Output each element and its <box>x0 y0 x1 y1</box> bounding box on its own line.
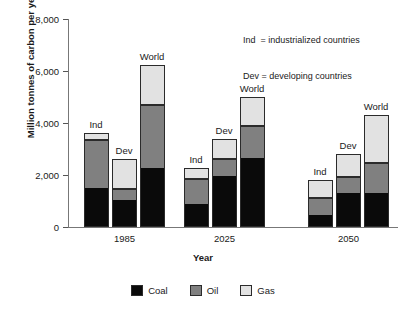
bar-segment-coal <box>337 193 360 227</box>
bar-2025-dev <box>212 139 237 227</box>
bar-2025-world <box>240 97 265 227</box>
x-axis-line <box>68 227 398 228</box>
legend-item-oil: Oil <box>190 285 219 296</box>
bar-1985-world <box>140 65 165 228</box>
bar-segment-coal <box>113 200 136 227</box>
legend-item-coal: Coal <box>131 285 168 296</box>
y-axis-line <box>68 19 69 228</box>
bar-segment-coal <box>141 168 164 227</box>
annotation-block: Ind = industrialized countries Dev = dev… <box>243 10 360 106</box>
bar-segment-gas <box>141 66 164 105</box>
x-tick-label: 1985 <box>95 233 155 244</box>
bar-2050-dev <box>336 154 361 227</box>
bar-segment-coal <box>309 215 332 227</box>
bar-segment-oil <box>113 189 136 200</box>
bar-segment-coal <box>365 193 388 227</box>
bar-segment-gas <box>365 116 388 163</box>
bar-segment-oil <box>365 163 388 193</box>
x-tick-label: 2050 <box>319 233 379 244</box>
bar-label-world: World <box>130 51 174 62</box>
bar-segment-gas <box>213 140 236 160</box>
x-axis-title: Year <box>0 252 406 263</box>
bar-label-ind: Ind <box>74 119 118 130</box>
bar-segment-gas <box>337 155 360 177</box>
x-tick-label: 2025 <box>195 233 255 244</box>
bar-2050-ind <box>308 180 333 227</box>
bar-segment-coal <box>85 188 108 227</box>
bar-segment-oil <box>141 105 164 169</box>
y-tick-label: 8,000 <box>19 14 59 25</box>
legend-item-gas: Gas <box>240 285 274 296</box>
bar-segment-oil <box>241 126 264 158</box>
legend-label: Coal <box>148 285 168 296</box>
chart-legend: CoalOilGas <box>0 285 406 296</box>
annotation-dev: Dev = developing countries <box>243 70 360 82</box>
y-tick-label: 4,000 <box>19 118 59 129</box>
chart-container: Million tonnes of carbon per year 02,000… <box>0 0 406 314</box>
legend-label: Oil <box>207 285 219 296</box>
legend-swatch-gas <box>240 285 252 296</box>
bar-segment-oil <box>309 198 332 215</box>
legend-swatch-oil <box>190 285 202 296</box>
bar-segment-gas <box>113 160 136 189</box>
y-tick-label: 2,000 <box>19 170 59 181</box>
bar-segment-coal <box>241 158 264 227</box>
y-tick-label: 6,000 <box>19 66 59 77</box>
bar-segment-coal <box>213 176 236 227</box>
bar-2025-ind <box>184 168 209 227</box>
bar-1985-dev <box>112 159 137 227</box>
bar-segment-coal <box>185 204 208 227</box>
legend-swatch-coal <box>131 285 143 296</box>
bar-label-world: World <box>354 101 398 112</box>
bar-segment-gas <box>309 181 332 198</box>
bar-segment-oil <box>213 159 236 176</box>
bar-segment-oil <box>185 179 208 204</box>
bar-segment-gas <box>185 169 208 179</box>
legend-label: Gas <box>257 285 274 296</box>
bar-segment-oil <box>337 177 360 193</box>
annotation-ind: Ind = industrialized countries <box>243 34 360 46</box>
bar-2050-world <box>364 115 389 227</box>
y-tick-label: 0 <box>19 222 59 233</box>
